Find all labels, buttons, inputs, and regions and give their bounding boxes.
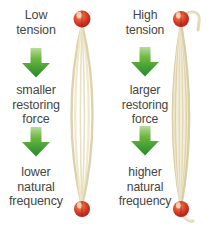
- loose-strands: [72, 24, 93, 206]
- arrow-down-icon: [19, 127, 53, 157]
- tension-frequency-diagram: Low tension smaller restoring force lowe…: [0, 0, 209, 232]
- taut-string-bundle-illustration: [157, 0, 209, 232]
- column-low-tension: Low tension smaller restoring force lowe…: [0, 0, 104, 232]
- loose-string-bundle-illustration: [60, 0, 104, 232]
- column-high-tension: High tension larger restoring force high…: [105, 0, 209, 232]
- arrow-down-icon: [19, 48, 53, 78]
- taut-strands: [173, 23, 190, 207]
